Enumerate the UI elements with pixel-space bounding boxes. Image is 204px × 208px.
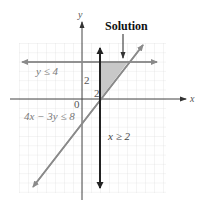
y-axis-label: y [77, 9, 83, 20]
origin-label: 0 [74, 98, 80, 110]
x-tick-label: 2 [94, 87, 100, 99]
inequality-label-4x-3y-le-8: 4x − 3y ≤ 8 [24, 110, 75, 122]
linear-inequalities-graph: Solution y x 0 2 2 y ≤ 4 4x − 3y ≤ 8 x ≥… [0, 0, 204, 208]
y-tick-label: 2 [84, 74, 90, 86]
inequality-label-y-le-4: y ≤ 4 [35, 65, 58, 77]
solution-label: Solution [105, 19, 148, 33]
x-axis-label: x [189, 93, 195, 104]
inequality-label-x-ge-2: x ≥ 2 [107, 130, 130, 142]
